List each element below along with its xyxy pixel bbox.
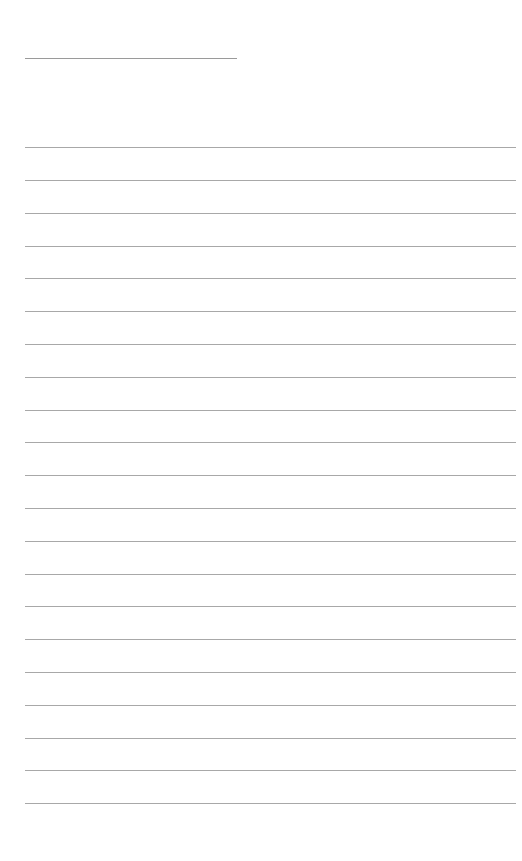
ruled-line bbox=[25, 606, 516, 607]
ruled-line bbox=[25, 508, 516, 509]
ruled-line bbox=[25, 246, 516, 247]
ruled-line bbox=[25, 574, 516, 575]
ruled-line bbox=[25, 377, 516, 378]
ruled-line bbox=[25, 541, 516, 542]
ruled-line bbox=[25, 442, 516, 443]
ruled-line bbox=[25, 311, 516, 312]
header-name-line bbox=[25, 58, 237, 59]
ruled-line bbox=[25, 803, 516, 804]
ruled-line bbox=[25, 410, 516, 411]
lined-page bbox=[0, 0, 522, 861]
ruled-line bbox=[25, 639, 516, 640]
ruled-line bbox=[25, 475, 516, 476]
ruled-line bbox=[25, 278, 516, 279]
ruled-line bbox=[25, 344, 516, 345]
ruled-line bbox=[25, 180, 516, 181]
ruled-line bbox=[25, 738, 516, 739]
ruled-line bbox=[25, 672, 516, 673]
ruled-line bbox=[25, 705, 516, 706]
ruled-line bbox=[25, 147, 516, 148]
ruled-line bbox=[25, 770, 516, 771]
ruled-line bbox=[25, 213, 516, 214]
